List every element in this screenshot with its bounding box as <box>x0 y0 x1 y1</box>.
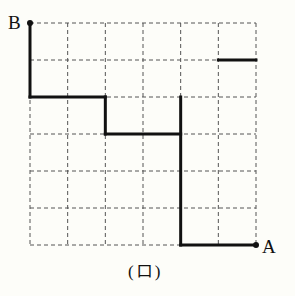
point-b-dot <box>27 20 33 26</box>
point-b-label: B <box>8 12 21 34</box>
point-a-label: A <box>262 236 276 258</box>
point-a-dot <box>253 242 259 248</box>
grid-diagram <box>0 0 295 296</box>
figure-caption: (ロ) <box>128 257 162 282</box>
